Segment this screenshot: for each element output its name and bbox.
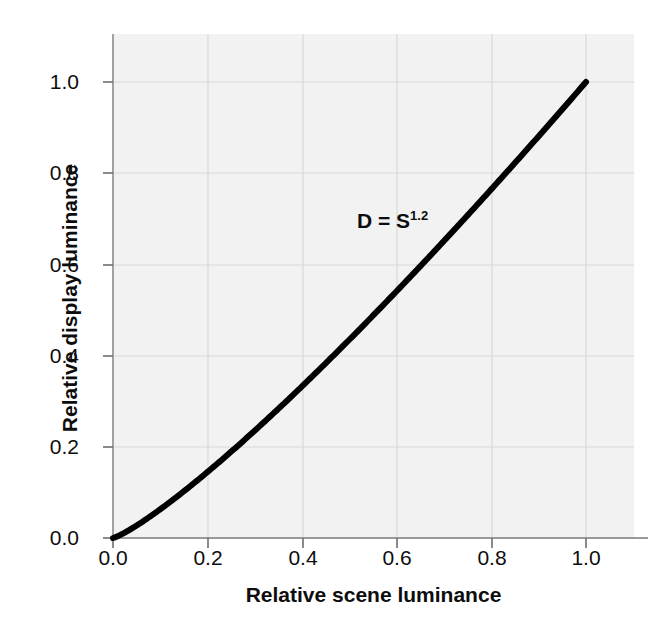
x-tick-label: 0.6 (382, 546, 411, 570)
y-tick-label: 0.0 (50, 526, 79, 550)
x-tick-label: 0.2 (193, 546, 222, 570)
x-tick-label: 0.4 (288, 546, 317, 570)
figure-container: e seen in teeth, there is a little curve… (0, 0, 665, 635)
axis-ticks (103, 82, 586, 548)
plot-svg (0, 0, 665, 635)
curve-equation-annotation: D = S1.2 (357, 208, 428, 233)
y-axis-title: Relative display luminance (58, 73, 82, 523)
x-axis-title: Relative scene luminance (113, 583, 634, 607)
equation-exponent: 1.2 (410, 208, 428, 223)
axis-spines (113, 34, 648, 538)
data-curve-d-equals-s-1-2 (113, 82, 586, 538)
x-tick-label: 0.0 (98, 546, 127, 570)
x-tick-label: 1.0 (571, 546, 600, 570)
equation-base: D = S (357, 209, 410, 232)
gridlines (113, 34, 634, 538)
x-tick-label: 0.8 (477, 546, 506, 570)
